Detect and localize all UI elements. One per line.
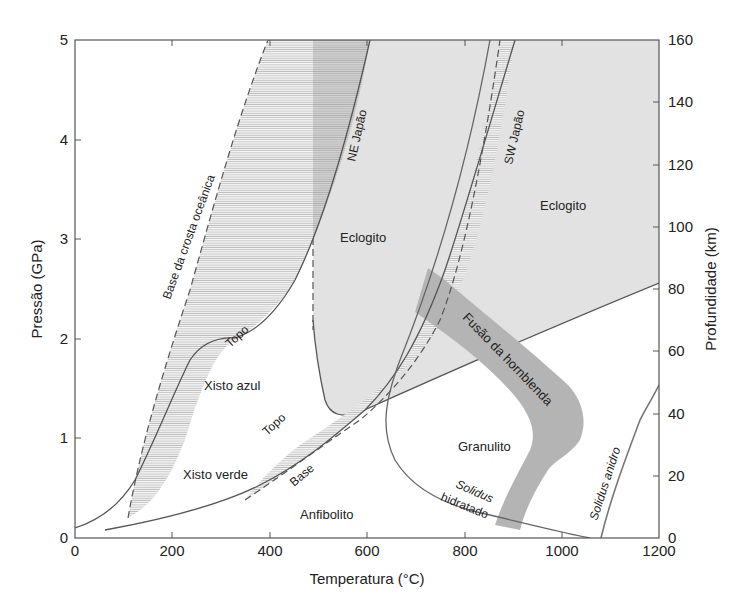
anhydrous-solidus-label: Solidus anidro [587,445,624,522]
y-right-tick: 160 [668,31,693,48]
x-tick: 200 [159,542,184,559]
y-right-tick: 0 [668,529,676,546]
greenschist-label: Xisto verde [183,467,248,482]
x-tick: 800 [452,542,477,559]
y-right-tick: 40 [668,405,685,422]
y-left-tick: 5 [60,31,68,48]
granulite-label: Granulito [458,439,511,454]
x-axis-title: Temperatura (°C) [309,570,424,587]
y-right-tick: 100 [668,218,693,235]
y-left-tick: 1 [60,429,68,446]
x-tick: 400 [257,542,282,559]
y-right-tick: 60 [668,342,685,359]
x-tick: 600 [354,542,379,559]
y-left-tick: 4 [60,131,68,148]
y-axis-left-title: Pressão (GPa) [28,239,45,338]
y-axis-left-ticks [75,140,81,438]
y-right-tick: 120 [668,156,693,173]
x-axis-tick-labels: 0 200 400 600 800 1000 1200 [71,542,676,559]
y-axis-right-title: Profundidade (km) [702,227,719,350]
y-right-tick: 140 [668,93,693,110]
y-right-tick: 80 [668,280,685,297]
y-left-tick: 0 [60,529,68,546]
y-axis-right-tick-labels: 0 20 40 60 80 100 120 140 160 [668,31,693,546]
blueschist-label: Xisto azul [204,378,260,393]
y-left-tick: 3 [60,230,68,247]
eclogite-label-left: Eclogito [340,230,386,245]
y-axis-left-tick-labels: 0 1 2 3 4 5 [60,31,68,546]
y-right-tick: 20 [668,467,685,484]
eclogite-label-right: Eclogito [540,198,586,213]
phase-diagram: 0 200 400 600 800 1000 1200 Temperatura … [0,0,747,613]
x-tick: 1000 [545,542,578,559]
y-left-tick: 2 [60,330,68,347]
x-tick: 0 [71,542,79,559]
anhydrous-solidus-text: Solidus anidro [587,445,624,522]
amphibolite-label: Anfibolito [300,507,353,522]
sw-topo-label: Topo [260,410,289,438]
